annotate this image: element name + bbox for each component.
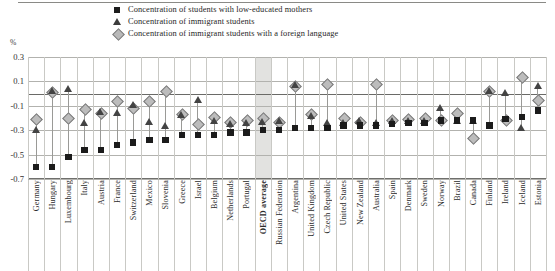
data-point-diamond <box>467 132 480 145</box>
data-point-triangle <box>258 118 266 125</box>
x-tick-separator <box>60 180 61 271</box>
data-point-square <box>179 132 185 138</box>
x-axis-label: Luxembourg <box>64 180 73 223</box>
data-point-diamond <box>160 85 173 98</box>
data-point-square <box>260 127 266 133</box>
x-tick-separator <box>190 180 191 271</box>
x-tick-separator <box>44 180 45 271</box>
x-tick-separator <box>271 180 272 271</box>
y-axis-tick-label: -0.5 <box>10 149 24 159</box>
data-column <box>352 57 368 179</box>
chart-container: Concentration of students with low-educa… <box>0 0 555 271</box>
data-point-square <box>114 142 120 148</box>
data-column <box>530 57 546 179</box>
data-column <box>77 57 93 179</box>
x-axis-label: New Zealand <box>356 180 365 225</box>
data-point-square <box>162 137 168 143</box>
data-column <box>222 57 238 179</box>
data-point-square <box>49 164 55 170</box>
data-column <box>141 57 157 179</box>
data-point-triangle <box>307 112 315 119</box>
data-point-triangle <box>48 87 56 94</box>
x-tick-separator <box>352 180 353 271</box>
x-axis-label: Denmark <box>404 180 413 211</box>
x-axis-label: Norway <box>437 180 446 207</box>
x-tick-separator <box>433 180 434 271</box>
x-tick-separator <box>28 180 29 271</box>
data-point-square <box>308 125 314 131</box>
data-column <box>319 57 335 179</box>
x-axis-label: Portugal <box>242 180 251 209</box>
data-point-triangle <box>64 85 72 92</box>
data-column <box>206 57 222 179</box>
data-point-triangle <box>194 96 202 103</box>
data-point-square <box>276 127 282 133</box>
x-tick-separator <box>303 180 304 271</box>
data-point-triangle <box>161 122 169 129</box>
data-point-square <box>195 132 201 138</box>
data-point-square <box>130 139 136 145</box>
x-axis-label: Russian Federation <box>275 180 284 245</box>
x-axis-label: Sweden <box>420 180 429 207</box>
data-point-square <box>81 147 87 153</box>
data-point-diamond <box>79 104 92 117</box>
data-point-triangle <box>32 126 40 133</box>
data-column <box>384 57 400 179</box>
x-axis-label: Brazil <box>453 180 462 201</box>
data-point-square <box>438 117 444 123</box>
data-point-diamond <box>516 71 529 84</box>
data-point-square <box>98 147 104 153</box>
data-column <box>287 57 303 179</box>
data-point-square <box>292 125 298 131</box>
x-tick-separator <box>238 180 239 271</box>
data-column <box>497 57 513 179</box>
data-point-square <box>389 121 395 127</box>
data-column <box>417 57 433 179</box>
data-column <box>93 57 109 179</box>
connector-stem <box>165 91 166 140</box>
x-tick-separator <box>449 180 450 271</box>
data-column <box>125 57 141 179</box>
square-marker-icon <box>112 4 123 15</box>
x-axis-label: Ireland <box>501 180 510 204</box>
data-point-triangle <box>96 108 104 115</box>
data-point-diamond <box>30 113 43 126</box>
data-column <box>336 57 352 179</box>
legend-item-label: Concentration of immigrant students <box>128 17 255 27</box>
x-tick-separator <box>158 180 159 271</box>
data-column <box>28 57 44 179</box>
chart-legend: Concentration of students with low-educa… <box>112 4 472 40</box>
data-column <box>465 57 481 179</box>
y-axis-tick-label: -0.3 <box>10 125 24 135</box>
x-tick-separator <box>514 180 515 271</box>
x-tick-separator <box>222 180 223 271</box>
x-tick-separator <box>400 180 401 271</box>
x-tick-separator <box>93 180 94 271</box>
data-point-square <box>405 120 411 126</box>
legend-item-immigrant-foreign-language: Concentration of immigrant students with… <box>112 28 472 39</box>
connector-stem <box>52 91 53 167</box>
data-point-square <box>373 122 379 128</box>
data-column <box>514 57 530 179</box>
x-axis-label: Austria <box>97 180 106 205</box>
data-point-diamond <box>144 95 157 108</box>
x-axis-label: Spain <box>388 180 397 199</box>
legend-item-low-educated-mothers: Concentration of students with low-educa… <box>112 4 472 15</box>
x-axis-label: Czech Republic <box>323 180 332 234</box>
x-tick-separator <box>125 180 126 271</box>
data-column <box>368 57 384 179</box>
x-tick-separator <box>481 180 482 271</box>
y-axis-tick-label: -0.1 <box>10 101 24 111</box>
legend-item-label: Concentration of immigrant students with… <box>128 29 338 39</box>
x-axis-label: Netherlands <box>226 180 235 221</box>
x-axis-label: France <box>113 180 122 203</box>
x-tick-separator <box>77 180 78 271</box>
x-tick-separator <box>206 180 207 271</box>
data-column <box>238 57 254 179</box>
data-column <box>400 57 416 179</box>
x-axis-labels: GermanyHungaryLuxembourgItalyAustriaFran… <box>28 180 546 271</box>
data-point-diamond <box>63 112 76 125</box>
x-tick-separator <box>336 180 337 271</box>
x-tick-separator <box>287 180 288 271</box>
x-axis-label: Slovenia <box>161 180 170 210</box>
